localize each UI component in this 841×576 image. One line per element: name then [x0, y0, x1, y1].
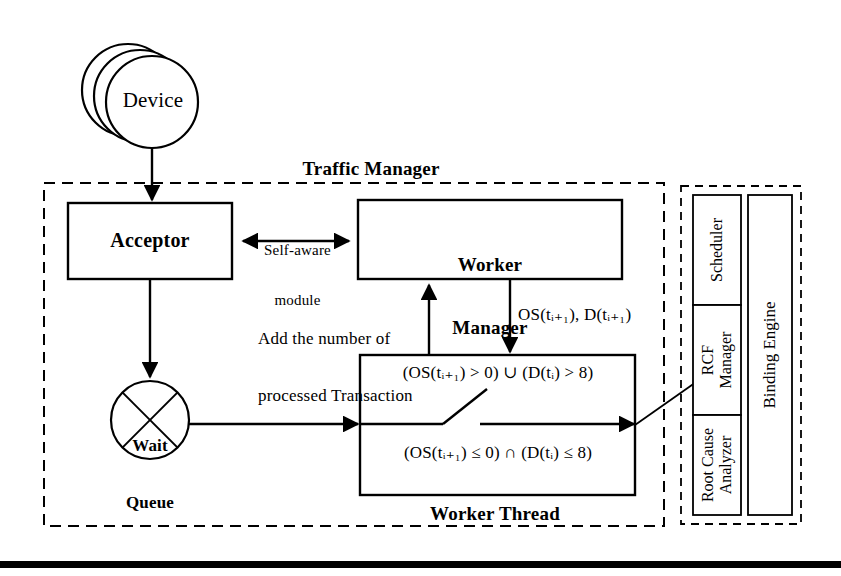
- binding-engine-label-wrap: Binding Engine: [748, 195, 792, 515]
- root-cause-analyzer-label-wrap: Root Cause Analyzer: [693, 415, 741, 515]
- processed-transaction-line2: processed Transaction: [258, 386, 463, 405]
- binding-engine-label: Binding Engine: [760, 301, 780, 408]
- worker-manager-label-line1: Worker: [358, 254, 622, 275]
- root-cause-analyzer-label: Root Cause Analyzer: [699, 428, 735, 502]
- bottom-black-bar: [0, 561, 841, 568]
- scheduler-label: Scheduler: [708, 218, 726, 282]
- scheduler-label-wrap: Scheduler: [693, 195, 741, 305]
- condition-true-label: (OS(tᵢ₊₁) > 0) ∪ (D(tᵢ) > 8): [362, 363, 634, 382]
- device-label: Device: [110, 89, 196, 113]
- metrics-label: OS(tᵢ₊₁), D(tᵢ₊₁): [518, 305, 658, 324]
- rcf-manager-line2: Manager: [717, 332, 735, 389]
- self-aware-line1: Self-aware: [240, 242, 355, 259]
- worker-thread-title: Worker Thread: [380, 503, 610, 524]
- rcf-manager-label: RCF Manager: [699, 332, 735, 389]
- root-cause-analyzer-line1: Root Cause: [699, 428, 717, 502]
- wait-queue-label: Wait Queue: [111, 398, 189, 550]
- processed-transaction-line1: Add the number of: [258, 329, 463, 348]
- acceptor-label: Acceptor: [68, 229, 232, 251]
- wait-queue-line2: Queue: [111, 493, 189, 512]
- rcf-manager-line1: RCF: [699, 332, 717, 389]
- traffic-manager-title: Traffic Manager: [256, 158, 486, 179]
- wait-queue-line1: Wait: [111, 436, 189, 455]
- rcf-manager-label-wrap: RCF Manager: [693, 305, 741, 415]
- diagram-canvas: Device Traffic Manager Acceptor Worker M…: [0, 0, 841, 576]
- condition-false-label: (OS(tᵢ₊₁) ≤ 0) ∩ (D(tᵢ) ≤ 8): [362, 443, 634, 462]
- root-cause-analyzer-line2: Analyzer: [717, 428, 735, 502]
